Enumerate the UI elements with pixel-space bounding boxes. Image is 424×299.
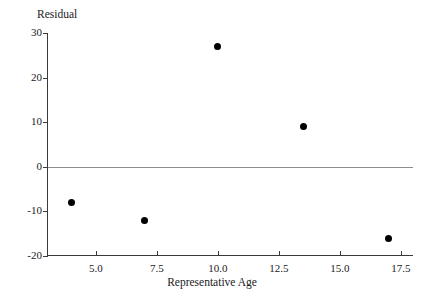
x-tick-mark [96,251,97,256]
x-axis-title: Representative Age [0,276,424,288]
y-tick-label: -20 [27,248,42,263]
y-tick-mark [43,122,48,123]
y-tick-mark [43,78,48,79]
x-tick-mark [279,251,280,256]
data-point [300,123,307,130]
x-tick-mark [340,251,341,256]
y-tick-mark [43,33,48,34]
data-point [385,235,392,242]
y-tick-mark [43,211,48,212]
y-tick-label: 30 [31,25,42,40]
y-tick-label: -10 [27,203,42,218]
y-tick-mark [43,256,48,257]
y-tick-label: 0 [37,159,43,174]
x-tick-label: 7.5 [150,261,164,275]
x-tick-label: 5.0 [89,261,103,275]
x-axis-line [47,255,413,256]
x-tick-label: 12.5 [269,261,288,275]
y-tick-label: 10 [31,114,42,129]
y-tick-mark [43,167,48,168]
y-tick-label: 20 [31,70,42,85]
data-point [214,43,221,50]
residual-plot-figure: Residual -20-100102030 5.07.510.012.515.… [0,0,424,299]
x-tick-mark [218,251,219,256]
y-axis-title: Residual [37,8,77,20]
zero-reference-line [47,167,413,168]
data-point [68,199,75,206]
data-point [141,217,148,224]
x-tick-label: 17.5 [391,261,410,275]
x-tick-mark [157,251,158,256]
y-axis-line [47,33,48,256]
x-tick-label: 10.0 [208,261,227,275]
plot-area: -20-100102030 5.07.510.012.515.017.5 [47,33,413,256]
x-tick-label: 15.0 [330,261,349,275]
x-tick-mark [401,251,402,256]
